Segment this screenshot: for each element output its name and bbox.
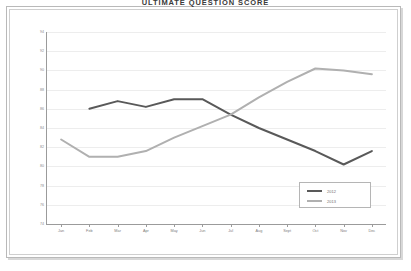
x-axis-tick-mark [146,224,147,227]
y-axis-tick-label: 88 [22,88,44,92]
x-axis-tick-mark [344,224,345,227]
y-axis-tick-label: 94 [22,30,44,34]
y-axis-tick-label: 90 [22,68,44,72]
x-axis-tick-label: Jun [199,229,205,234]
x-axis-tick-mark [61,224,62,227]
x-axis-tick-label: May [171,229,178,234]
x-axis-tick-mark [174,224,175,227]
legend-swatch-icon [307,190,322,193]
y-axis-tick-label: 84 [22,126,44,130]
x-axis-tick-mark [231,224,232,227]
x-axis-tick-mark [259,224,260,227]
chart-legend: 20122013 [299,182,371,208]
y-axis-tick-label: 80 [22,164,44,168]
x-axis-tick-label: Oct [312,229,318,234]
chart-title: ULTIMATE QUESTION SCORE [0,0,411,7]
legend-item-2013[interactable]: 2013 [307,197,370,205]
y-axis-tick-label: 76 [22,203,44,207]
x-axis-tick-label: Feb [86,229,93,234]
x-axis-tick-mark [118,224,119,227]
x-axis-line [46,224,386,225]
legend-label: 2012 [327,189,336,194]
x-axis-tick-label: Jan [58,229,64,234]
legend-label: 2013 [327,199,336,204]
legend-item-2012[interactable]: 2012 [307,187,370,195]
x-axis-tick-mark [372,224,373,227]
x-axis-tick-mark [315,224,316,227]
y-axis-tick-label: 74 [22,222,44,226]
x-axis-tick-label: Apr [143,229,149,234]
x-axis-tick-label: Aug [255,229,262,234]
x-axis-tick-label: Sept [283,229,291,234]
x-axis-tick-label: Nov [340,229,347,234]
x-axis-tick-mark [287,224,288,227]
y-axis-tick-label: 92 [22,49,44,53]
x-axis-tick-mark [89,224,90,227]
chart-plot-container: 9492908886848280787674 JanFebMarAprMayJu… [20,30,392,235]
x-axis-tick-mark [202,224,203,227]
y-axis-tick-label: 82 [22,145,44,149]
series-line-2013 [61,68,372,156]
y-axis: 9492908886848280787674 [20,32,44,224]
x-axis-tick-label: Dec [368,229,375,234]
y-axis-tick-label: 86 [22,107,44,111]
y-axis-tick-label: 78 [22,184,44,188]
legend-swatch-icon [307,200,322,203]
x-axis-tick-label: Jul [228,229,233,234]
x-axis-tick-label: Mar [114,229,121,234]
